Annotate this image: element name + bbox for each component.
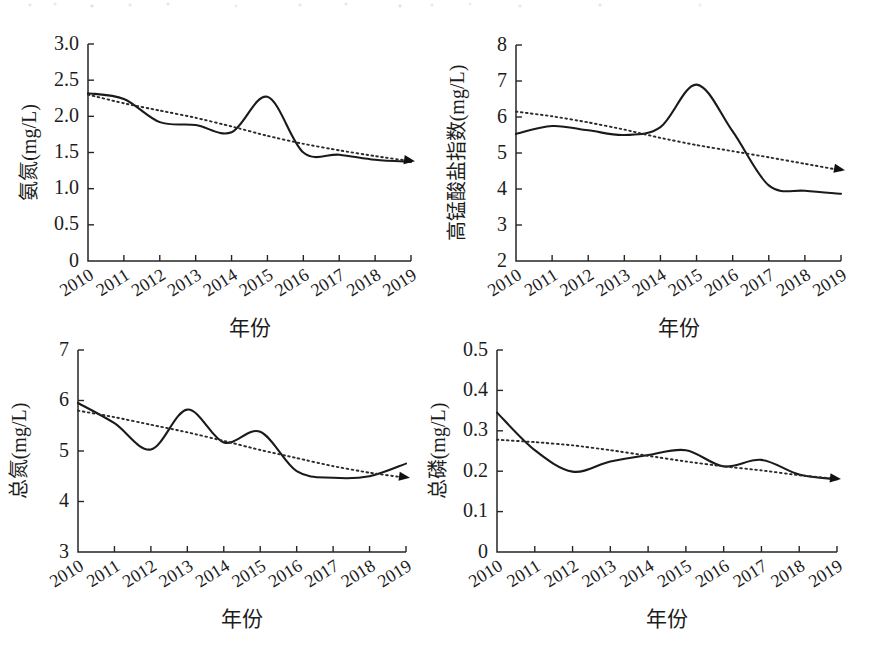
x-tick-label: 2013: [592, 264, 633, 300]
y-tick-label: 2.0: [54, 104, 79, 126]
axis-lines: [88, 44, 411, 261]
chart-panel-ammonia-nitrogen: 00.51.01.52.02.53.0氨氮(mg/L)2010201120122…: [0, 18, 436, 318]
x-tick-label: 2015: [654, 555, 695, 591]
y-tick-label: 2.5: [54, 68, 79, 90]
x-axis-label: 年份: [646, 607, 688, 631]
x-tick-label: 2014: [628, 264, 669, 300]
x-tick-label: 2011: [92, 264, 133, 300]
x-tick-label: 2015: [235, 264, 276, 300]
trend-arrowhead: [830, 473, 842, 483]
x-tick-label: 2013: [164, 264, 205, 300]
axis-lines: [78, 350, 406, 552]
x-tick-label: 2013: [155, 555, 196, 591]
x-axis-label: 年份: [221, 607, 263, 631]
y-tick-label: 0.2: [463, 459, 488, 481]
x-axis-ticks: 2010201120122013201420152016201720182019: [46, 546, 415, 591]
data-line-total-nitrogen: [78, 403, 406, 478]
x-tick-label: 2013: [578, 555, 619, 591]
x-tick-label: 2018: [773, 264, 814, 300]
y-tick-label: 0.4: [463, 378, 488, 400]
x-tick-label: 2015: [228, 555, 269, 591]
chart-panel-total-nitrogen: 34567总氮(mg/L)201020112012201320142015201…: [0, 330, 436, 653]
x-tick-label: 2017: [737, 264, 778, 300]
x-tick-label: 2016: [692, 555, 733, 591]
x-tick-label: 2010: [465, 555, 506, 591]
x-tick-label: 2011: [503, 555, 544, 591]
x-tick-label: 2011: [521, 264, 562, 300]
y-tick-label: 1.0: [54, 176, 79, 198]
x-tick-label: 2017: [307, 264, 348, 300]
y-tick-label: 8: [497, 33, 507, 55]
y-axis-label: 总磷(mg/L): [427, 403, 450, 500]
trend-line-total-nitrogen: [78, 411, 406, 478]
y-tick-label: 3: [497, 213, 507, 235]
x-tick-label: 2018: [767, 555, 808, 591]
chart-panel-total-phosphorus: 00.10.20.30.40.5总磷(mg/L)2010201120122013…: [434, 330, 869, 653]
y-axis-label: 氨氮(mg/L): [18, 104, 41, 201]
x-tick-label: 2016: [271, 264, 312, 300]
y-tick-label: 7: [497, 69, 507, 91]
x-tick-label: 2012: [556, 264, 597, 300]
trend-arrowhead: [398, 472, 410, 483]
y-tick-label: 5: [497, 141, 507, 163]
four-panel-water-quality-figure: 00.51.01.52.02.53.0氨氮(mg/L)2010201120122…: [0, 0, 869, 653]
x-tick-label: 2017: [729, 555, 770, 591]
y-axis-label: 总氮(mg/L): [8, 403, 31, 500]
x-tick-label: 2017: [301, 555, 342, 591]
y-tick-label: 0: [478, 540, 488, 562]
x-tick-label: 2016: [701, 264, 742, 300]
x-tick-label: 2012: [541, 555, 582, 591]
y-tick-label: 4: [497, 177, 507, 199]
y-tick-label: 0: [69, 249, 79, 271]
x-tick-label: 2010: [484, 264, 525, 300]
y-tick-label: 2: [497, 249, 507, 271]
data-line-permanganate-index: [516, 85, 841, 194]
x-tick-label: 2019: [379, 264, 420, 300]
y-tick-label: 6: [497, 105, 507, 127]
y-tick-label: 1.5: [54, 140, 79, 162]
trend-arrowhead: [403, 155, 415, 166]
y-tick-label: 0.5: [463, 338, 488, 360]
trend-line-ammonia-nitrogen: [88, 95, 411, 162]
y-tick-label: 6: [59, 388, 69, 410]
x-tick-label: 2019: [374, 555, 415, 591]
x-axis-ticks: 2010201120122013201420152016201720182019: [56, 255, 420, 300]
chart-panel-permanganate-index: 2345678高锰酸盐指数(mg/L)201020112012201320142…: [434, 18, 869, 318]
x-tick-label: 2010: [46, 555, 87, 591]
x-tick-label: 2018: [343, 264, 384, 300]
x-tick-label: 2015: [665, 264, 706, 300]
x-tick-label: 2014: [200, 264, 241, 300]
y-tick-label: 3.0: [54, 32, 79, 54]
axis-lines: [516, 45, 841, 261]
y-tick-label: 0.5: [54, 212, 79, 234]
x-tick-label: 2019: [805, 555, 846, 591]
x-tick-label: 2014: [192, 555, 233, 591]
scan-artifact-strip: [0, 0, 869, 14]
data-line-ammonia-nitrogen: [88, 93, 411, 162]
x-tick-label: 2016: [265, 555, 306, 591]
y-tick-label: 0.3: [463, 418, 488, 440]
x-axis-ticks: 2010201120122013201420152016201720182019: [465, 546, 846, 591]
y-tick-label: 5: [59, 439, 69, 461]
x-tick-label: 2019: [809, 264, 850, 300]
y-tick-label: 7: [59, 338, 69, 360]
x-axis-ticks: 2010201120122013201420152016201720182019: [484, 255, 850, 300]
x-tick-label: 2014: [616, 555, 657, 591]
x-tick-label: 2011: [83, 555, 124, 591]
y-axis-ticks: 34567: [59, 338, 84, 562]
y-tick-label: 0.1: [463, 499, 488, 521]
x-tick-label: 2012: [119, 555, 160, 591]
y-axis-label: 高锰酸盐指数(mg/L): [446, 65, 469, 242]
x-tick-label: 2018: [338, 555, 379, 591]
x-tick-label: 2010: [56, 264, 97, 300]
trend-arrowhead: [833, 164, 845, 175]
y-tick-label: 3: [59, 540, 69, 562]
trend-line-permanganate-index: [516, 112, 841, 171]
y-axis-ticks: 2345678: [497, 33, 522, 271]
y-tick-label: 4: [59, 489, 69, 511]
data-line-total-phosphorus: [497, 413, 837, 480]
x-tick-label: 2012: [128, 264, 169, 300]
